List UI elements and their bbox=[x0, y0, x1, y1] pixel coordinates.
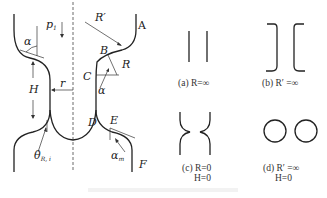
subfig-b-right-bracket bbox=[294, 24, 305, 71]
label-point-f: F bbox=[138, 158, 147, 171]
label-r-prime: R′ bbox=[94, 11, 106, 24]
label-point-e: E bbox=[109, 114, 118, 127]
subfig-c-left-curve bbox=[180, 112, 190, 155]
subfig-b-caption: (b) R′ =∞ bbox=[262, 78, 299, 89]
label-alpha-m: αm bbox=[111, 149, 124, 162]
label-theta: θR, i bbox=[34, 149, 51, 162]
faded-caption-bar bbox=[88, 188, 238, 192]
subfig-c-caption-2: H=0 bbox=[194, 173, 211, 183]
label-point-c: C bbox=[83, 70, 92, 83]
theta-arrowhead bbox=[44, 127, 47, 132]
label-pressure: p1 bbox=[46, 18, 57, 31]
label-point-a: A bbox=[137, 19, 147, 32]
label-radius: r bbox=[60, 77, 66, 90]
radius-arrowhead bbox=[51, 88, 55, 92]
subfig-d-left-circle bbox=[264, 120, 286, 142]
subfig-c-right-curve bbox=[200, 112, 210, 155]
label-point-d: D bbox=[87, 116, 97, 129]
pressure-arrowhead bbox=[60, 34, 64, 38]
r-radius-line bbox=[108, 55, 117, 75]
r-prime-arrow bbox=[85, 22, 121, 45]
label-point-b: B bbox=[99, 44, 108, 57]
subfig-a-caption: (a) R=∞ bbox=[178, 78, 210, 89]
subfig-d-right-circle bbox=[295, 120, 317, 142]
alpha-right-arrowhead bbox=[106, 68, 109, 72]
alpha-left-tangent bbox=[20, 50, 44, 58]
height-arrowhead-up bbox=[31, 61, 35, 65]
figure-canvas: p1 R′ A B R C α α H r D E θR, i αm F (a)… bbox=[0, 0, 327, 198]
alpha-m-arrowhead bbox=[115, 138, 119, 143]
label-height: H bbox=[28, 83, 39, 96]
height-arrowhead-down bbox=[31, 115, 35, 119]
label-alpha-left: α bbox=[24, 35, 32, 48]
subfig-b-left-bracket bbox=[266, 24, 277, 71]
label-r: R bbox=[121, 58, 130, 71]
subfig-d-caption-2: H=0 bbox=[275, 173, 292, 183]
label-alpha-right: α bbox=[98, 84, 106, 97]
